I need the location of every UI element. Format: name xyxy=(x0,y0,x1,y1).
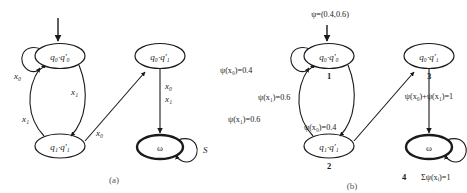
b-edge-down-label: ψ(x₁)=0.6 xyxy=(258,93,290,102)
b-header-psi: ψ=(0.4,0.6) xyxy=(311,10,349,19)
a-node-q1q1-label: q₁·q′₁ xyxy=(50,142,69,152)
b-caption: (b) xyxy=(347,181,358,191)
b-node-q0q0-number: 1 xyxy=(327,71,331,81)
a-node-omega-label: ω xyxy=(157,143,163,153)
b-node-q1q1-label: q₁·q′₁ xyxy=(319,142,338,152)
a-edge-up-label: x₁ xyxy=(21,114,29,124)
a-edge-up xyxy=(30,68,44,136)
b-edge-down xyxy=(340,65,354,136)
a-node-q0q1-label: q₀·q′₁ xyxy=(150,52,169,62)
b-selfloop-omega-label: Σψ(xᵢ)=1 xyxy=(421,173,451,182)
a-node-q0q0-label: q₀·q′₀ xyxy=(50,52,69,62)
panel-a: x₀ q₀·q′₀ q₁·q′₁ x₁ x₁ x₀ q₀·q′₁ x₀ x₁ xyxy=(13,18,208,185)
b-node-q0q1-label: q₀·q′₁ xyxy=(419,52,438,62)
b-selfloop-label: ψ(x₀)=0.4 xyxy=(220,66,252,75)
state-diagram-svg: x₀ q₀·q′₀ q₁·q′₁ x₁ x₁ x₀ q₀·q′₁ x₀ x₁ xyxy=(0,0,467,193)
a-selfloop-omega-label: S xyxy=(203,145,208,155)
panel-b: ψ=(0.4,0.6) ψ(x₀)=0.4 q₀·q′₀ 1 q₁·q′₁ 2 … xyxy=(220,10,466,191)
b-edge-diagonal xyxy=(354,72,414,141)
a-edge-down-label: x₁ xyxy=(70,87,78,97)
b-edge-up-label: ψ(x₁)=0.6 xyxy=(228,115,260,124)
b-node-q0q0-label: q₀·q′₀ xyxy=(319,52,338,62)
a-edge-down xyxy=(71,65,85,136)
b-node-omega-number: 4 xyxy=(402,172,407,182)
a-edge-diagonal xyxy=(85,72,145,141)
a-edge-vertical-label-x1: x₁ xyxy=(164,94,172,104)
a-edge-vertical-label-x0: x₀ xyxy=(164,81,172,91)
a-edge-diagonal-label: x₀ xyxy=(95,128,103,138)
b-edge-diagonal-label: ψ(x₀)=0.4 xyxy=(304,123,336,132)
a-caption: (a) xyxy=(109,175,119,185)
b-edge-vertical-label: ψ(x₀)+ψ(x₁)=1 xyxy=(405,92,453,101)
b-node-q1q1-number: 2 xyxy=(327,161,331,171)
figure-container: x₀ q₀·q′₀ q₁·q′₁ x₁ x₁ x₀ q₀·q′₁ x₀ x₁ xyxy=(0,0,467,193)
b-node-omega-label: ω xyxy=(426,143,432,153)
a-selfloop-label: x₀ xyxy=(13,71,21,81)
